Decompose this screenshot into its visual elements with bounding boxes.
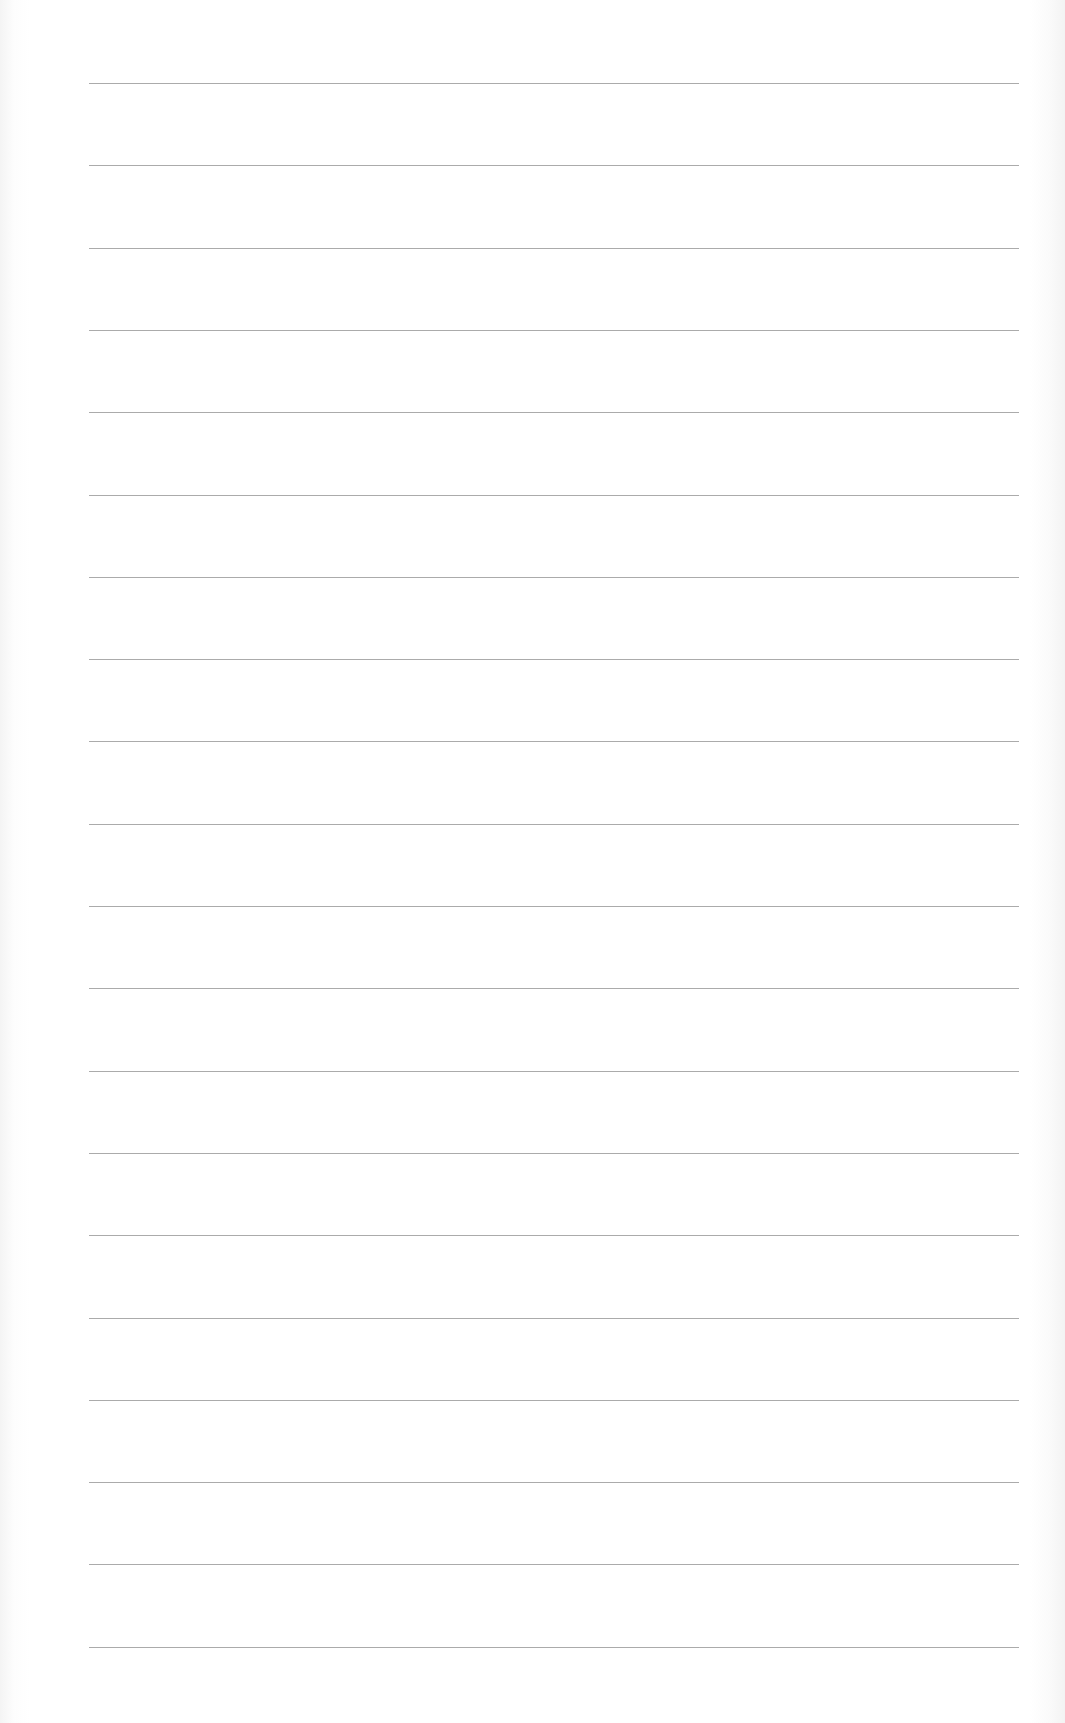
ruled-line	[89, 1318, 1019, 1319]
ruled-line	[89, 248, 1019, 249]
ruled-line	[89, 906, 1019, 907]
ruled-line	[89, 83, 1019, 84]
ruled-line	[89, 1153, 1019, 1154]
ruled-line	[89, 824, 1019, 825]
ruled-line	[89, 1235, 1019, 1236]
ruled-line	[89, 1482, 1019, 1483]
ruled-line	[89, 988, 1019, 989]
ruled-line	[89, 1647, 1019, 1648]
ruled-line	[89, 1564, 1019, 1565]
ruled-line	[89, 659, 1019, 660]
lined-paper-page	[0, 0, 1065, 1723]
ruled-line	[89, 330, 1019, 331]
ruled-line	[89, 741, 1019, 742]
ruled-line	[89, 165, 1019, 166]
ruled-line	[89, 1400, 1019, 1401]
ruled-line	[89, 577, 1019, 578]
ruled-line	[89, 1071, 1019, 1072]
ruled-line	[89, 412, 1019, 413]
ruled-line	[89, 495, 1019, 496]
